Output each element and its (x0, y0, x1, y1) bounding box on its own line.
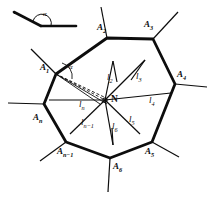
segment-label-l5-sub: 5 (132, 119, 135, 126)
vertex-alpha-label: α (69, 64, 73, 71)
segment-label-ln: ln (79, 100, 85, 111)
vertex-label-A1-sub: 1 (46, 67, 49, 74)
inset-ray-left (14, 12, 41, 26)
vertex-label-An-sub: n (39, 117, 42, 124)
polygon-outline (44, 38, 175, 158)
stub-l2 (113, 61, 117, 82)
ray-A6-out (108, 158, 110, 192)
vertex-label-A1: A1 (40, 63, 49, 74)
geometry-figure: α A1 A2 A3 A4 A5 A6 An−1 An l2 l3 l4 l5 … (0, 0, 210, 198)
vertex-label-A3-sub: 3 (150, 24, 153, 31)
ray-A4-out (175, 84, 207, 87)
vertex-label-A2: A2 (97, 23, 106, 34)
segment-label-l6-sub: 6 (115, 126, 118, 133)
ray-A5-out (152, 142, 179, 157)
segment-label-l4: l4 (149, 96, 155, 107)
vertex-label-An: An (33, 113, 42, 124)
segment-label-l2-sub: 2 (110, 77, 113, 84)
vertex-label-An-1: An−1 (57, 147, 73, 158)
vertex-label-A2-sub: 2 (103, 27, 106, 34)
ray-A3-out (153, 12, 178, 39)
segment-label-l3-sub: 3 (139, 76, 142, 83)
center-point-label: N (111, 95, 118, 105)
dashed-A1-aux-upper (56, 74, 104, 97)
vertex-label-A3: A3 (144, 20, 153, 31)
segment-label-l6: l6 (112, 122, 118, 133)
vertex-label-An-1-sub: n−1 (63, 151, 73, 158)
segment-label-l5: l5 (129, 115, 135, 126)
segment-label-l3: l3 (136, 72, 142, 83)
segment-label-ln-1: ln−1 (81, 118, 94, 129)
ray-An-out (8, 103, 44, 104)
vertex-label-A5-sub: 5 (151, 151, 154, 158)
segment-label-ln-1-sub: n−1 (84, 122, 94, 129)
vertex-label-A4: A4 (177, 70, 186, 81)
polygon-boundary (44, 38, 175, 158)
segment-label-l4-sub: 4 (152, 100, 155, 107)
vertex-label-A6-sub: 6 (119, 166, 122, 173)
vertex-label-A4-sub: 4 (183, 74, 186, 81)
vertex-label-A5: A5 (145, 147, 154, 158)
segment-label-l2: l2 (107, 73, 113, 84)
segment-label-ln-sub: n (82, 104, 85, 111)
inset-alpha-label: α (43, 11, 47, 18)
vertex-label-A6: A6 (113, 162, 122, 173)
